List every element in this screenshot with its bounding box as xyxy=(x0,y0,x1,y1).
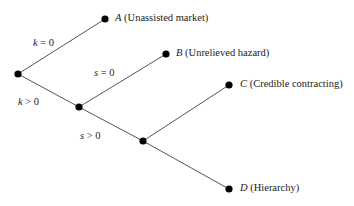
node-n1 xyxy=(75,103,82,110)
leaf-desc: (Credible contracting) xyxy=(250,78,343,89)
edge-label-k-positive: k > 0 xyxy=(18,97,39,108)
leaf-desc: (Hierarchy) xyxy=(250,182,299,193)
edge-label-s-positive: s > 0 xyxy=(80,131,101,142)
leaf-letter: A xyxy=(115,12,121,23)
edge-label-k-zero: k = 0 xyxy=(33,38,54,49)
edge-label-s-zero: s = 0 xyxy=(94,68,115,79)
node-D xyxy=(225,185,232,192)
node-n2 xyxy=(139,137,146,144)
edge-n1-B xyxy=(79,54,166,107)
edge-label-rest: = 0 xyxy=(38,37,54,48)
edge-label-rest: > 0 xyxy=(23,96,39,107)
node-root xyxy=(14,70,21,77)
node-A xyxy=(101,15,108,22)
leaf-label-a: A (Unassisted market) xyxy=(115,13,208,24)
node-B xyxy=(162,50,169,57)
node-C xyxy=(225,81,232,88)
leaf-letter: D xyxy=(240,182,248,193)
edge-n2-D xyxy=(143,141,229,189)
leaf-desc: (Unassisted market) xyxy=(124,12,208,23)
leaf-desc: (Unrelieved hazard) xyxy=(185,47,269,58)
edge-n2-C xyxy=(143,85,229,141)
edge-label-rest: = 0 xyxy=(98,67,114,78)
leaf-label-c: C (Credible contracting) xyxy=(240,79,343,90)
edge-root-A xyxy=(18,19,105,74)
leaf-label-d: D (Hierarchy) xyxy=(240,183,299,194)
leaf-label-b: B (Unrelieved hazard) xyxy=(176,48,269,59)
edge-label-rest: > 0 xyxy=(84,130,100,141)
leaf-letter: B xyxy=(176,47,182,58)
tree-diagram xyxy=(0,0,354,206)
leaf-letter: C xyxy=(240,78,247,89)
